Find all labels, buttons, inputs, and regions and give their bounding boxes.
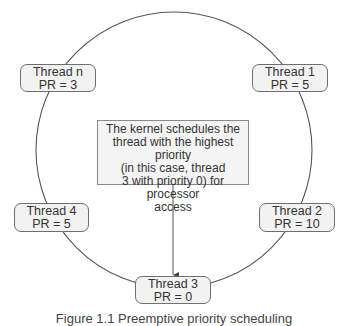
kernel-note-line: access (98, 201, 248, 214)
thread-2-node: Thread 2 PR = 10 (259, 203, 335, 232)
thread-n-node: Thread n PR = 3 (20, 64, 96, 92)
kernel-note-line: thread with the highest priority (98, 136, 248, 162)
thread-4-node: Thread 4 PR = 5 (14, 203, 89, 232)
thread-priority: PR = 0 (136, 291, 210, 304)
thread-1-node: Thread 1 PR = 5 (252, 64, 328, 92)
thread-priority: PR = 3 (21, 79, 95, 92)
thread-priority: PR = 5 (15, 218, 88, 231)
figure-caption: Figure 1.1 Preemptive priority schedulin… (0, 311, 348, 326)
kernel-note: The kernel schedules the thread with the… (97, 120, 249, 185)
thread-3-node: Thread 3 PR = 0 (135, 276, 211, 304)
thread-priority: PR = 5 (253, 79, 327, 92)
thread-priority: PR = 10 (260, 218, 334, 231)
kernel-note-line: 3 with priority 0) for processor (98, 175, 248, 201)
